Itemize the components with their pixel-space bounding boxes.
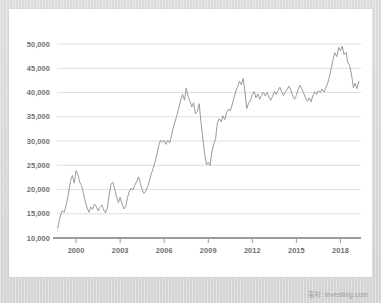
grid-lines [57,44,361,214]
chart-image-frame: 10,00015,00020,00025,00030,00035,00040,0… [0,0,381,303]
x-axis-tick-label: 2009 [200,246,217,255]
y-axis-tick-label: 50,000 [27,40,50,49]
x-axis-baseline [53,238,361,243]
x-axis-tick-label: 2003 [112,246,129,255]
data-series-line [58,46,359,228]
source-watermark: 출처: Investing.com [308,289,368,299]
y-axis-tick-label: 45,000 [27,64,50,73]
line-chart: 10,00015,00020,00025,00030,00035,00040,0… [9,9,372,277]
plot-area: 10,00015,00020,00025,00030,00035,00040,0… [9,9,372,277]
y-axis-tick-label: 40,000 [27,88,50,97]
y-axis-labels: 10,00015,00020,00025,00030,00035,00040,0… [27,40,50,243]
y-axis-tick-label: 20,000 [27,185,50,194]
y-axis-tick-label: 15,000 [27,209,50,218]
chart-card: 10,00015,00020,00025,00030,00035,00040,0… [9,9,372,277]
x-axis-tick-label: 2015 [288,246,305,255]
x-axis-labels: 2000200320062009201220152018 [68,246,349,255]
y-axis-tick-label: 10,000 [27,234,50,243]
y-axis-tick-label: 30,000 [27,137,50,146]
x-axis-tick-label: 2012 [244,246,261,255]
x-axis-tick-label: 2018 [332,246,349,255]
x-axis-tick-label: 2000 [68,246,85,255]
x-axis-tick-label: 2006 [156,246,173,255]
y-axis-tick-label: 25,000 [27,161,50,170]
y-axis-tick-label: 35,000 [27,112,50,121]
